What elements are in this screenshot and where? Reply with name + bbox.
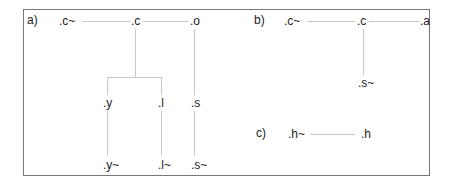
edge-a-y-ytilde [107, 111, 108, 156]
edge-b-c-stilde [363, 29, 364, 75]
panel-b-label: b) [254, 14, 265, 26]
node-a-o: .o [190, 15, 200, 27]
edge-a-ctilde-c [82, 21, 130, 22]
edge-a-s-stilde [194, 111, 195, 156]
node-a-y-tilde: .y~ [103, 159, 119, 171]
edge-b-c-a [369, 21, 420, 22]
node-a-l-tilde: .l~ [158, 159, 171, 171]
node-a-c: .c [131, 15, 140, 27]
edge-c-htilde-h [310, 134, 355, 135]
node-a-s-tilde: .s~ [191, 159, 207, 171]
node-c-h-tilde: .h~ [288, 128, 305, 140]
edge-a-branch-l [161, 77, 162, 95]
edge-a-c-o [143, 21, 189, 22]
node-b-s-tilde: .s~ [358, 77, 374, 89]
edge-a-branch-bar [107, 77, 162, 78]
edge-a-c-branch [135, 29, 136, 77]
node-a-c-tilde: .c~ [59, 15, 75, 27]
diagram-frame [23, 9, 430, 176]
edge-a-o-s [194, 29, 195, 95]
panel-c-label: c) [256, 127, 266, 139]
edge-a-l-ltilde [161, 111, 162, 156]
node-b-c: .c [357, 15, 366, 27]
node-a-l: .l [158, 97, 164, 109]
node-b-c-tilde: .c~ [284, 15, 300, 27]
node-b-a: .a [420, 15, 430, 27]
node-a-y: .y [103, 97, 112, 109]
panel-a-label: a) [27, 14, 38, 26]
edge-b-ctilde-c [307, 21, 355, 22]
node-a-s: .s [191, 97, 200, 109]
node-c-h: .h [361, 128, 371, 140]
edge-a-branch-y [107, 77, 108, 95]
